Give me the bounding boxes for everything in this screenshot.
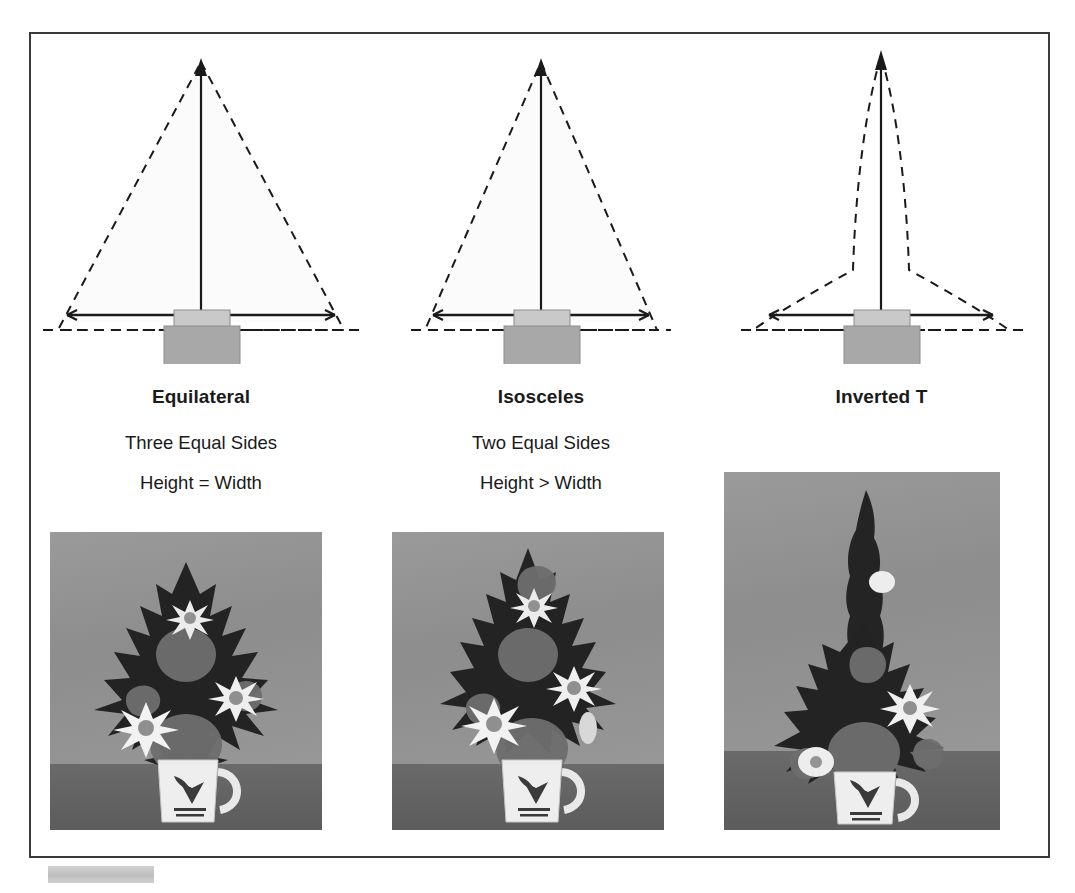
blossom-white-top: [510, 588, 558, 628]
photo-inverted-t-arrangement: [724, 472, 1000, 830]
figure-frame: Equilateral Three Equal Sides Height = W…: [29, 32, 1050, 858]
blossom-bud-right: [579, 712, 597, 744]
photo-equilateral-arrangement: [50, 532, 322, 830]
figure-columns: Equilateral Three Equal Sides Height = W…: [31, 34, 1048, 856]
height-axis-arrowhead: [875, 50, 887, 70]
blossom-white-right: [208, 676, 264, 722]
shape-title-equilateral: Equilateral: [31, 386, 371, 408]
photo-isosceles-arrangement: [392, 532, 664, 830]
shape-column-inverted-t: Inverted T: [711, 34, 1052, 856]
mug-vessel: [834, 772, 915, 824]
height-axis-arrowhead: [195, 58, 207, 76]
container-block-lower: [504, 326, 580, 364]
blossom-white-left: [798, 747, 834, 777]
gray-swatch: [48, 866, 154, 883]
shape-column-isosceles: Isosceles Two Equal Sides Height > Width: [371, 34, 711, 856]
shape-desc-isosceles-ratio: Height > Width: [371, 472, 711, 494]
container-block-lower: [844, 326, 920, 364]
mug-vessel: [502, 760, 581, 822]
blossom-white-top: [166, 600, 214, 640]
mug-vessel: [158, 760, 237, 822]
container-block-lower: [164, 326, 240, 364]
blossom-white-upper: [869, 571, 895, 593]
shape-desc-equilateral-sides: Three Equal Sides: [31, 432, 371, 454]
shape-column-equilateral: Equilateral Three Equal Sides Height = W…: [31, 34, 371, 856]
shape-title-inverted-t: Inverted T: [711, 386, 1052, 408]
shape-desc-isosceles-sides: Two Equal Sides: [371, 432, 711, 454]
height-axis-arrowhead: [535, 58, 547, 76]
blossom-white-right: [546, 666, 602, 712]
shape-desc-equilateral-ratio: Height = Width: [31, 472, 371, 494]
diagram-equilateral: [31, 34, 371, 364]
diagram-inverted-t: [711, 34, 1052, 364]
diagram-isosceles: [371, 34, 711, 364]
shape-title-isosceles: Isosceles: [371, 386, 711, 408]
